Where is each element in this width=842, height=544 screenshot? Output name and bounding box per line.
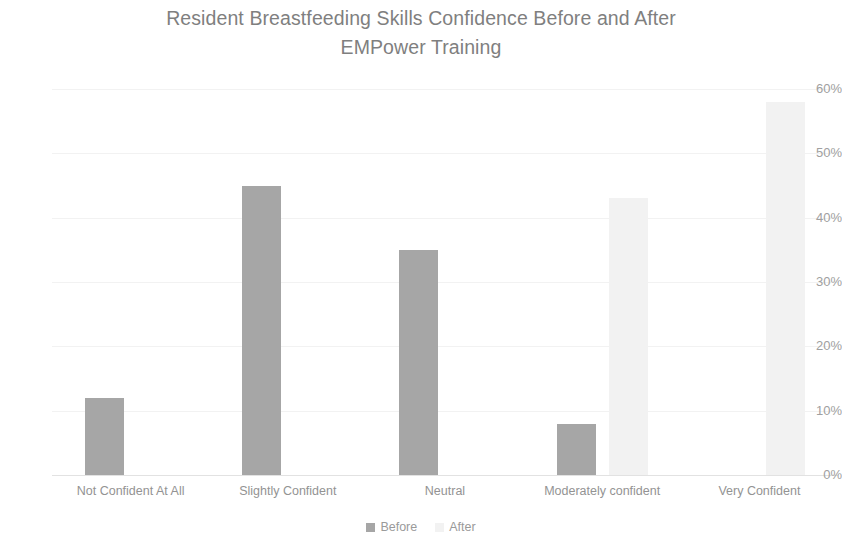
bar-group [524,89,681,475]
y-axis-tick-label: 40% [796,211,842,224]
x-axis-tick-label: Very Confident [681,484,838,499]
x-axis-tick-label: Not Confident At All [52,484,209,499]
x-axis-tick-label: Moderately confident [524,484,681,499]
legend-swatch-icon [366,523,375,532]
legend-label: Before [380,521,417,534]
x-axis-line [52,475,838,476]
x-axis-tick-label: Neutral [366,484,523,499]
legend-label: After [449,521,475,534]
bar-before[interactable] [399,250,438,475]
bar-group [52,89,209,475]
y-axis-tick-label: 10% [796,404,842,417]
y-axis-tick-label: 60% [796,82,842,95]
legend-swatch-icon [435,523,444,532]
legend-item[interactable]: Before [366,521,417,534]
y-axis-tick-label: 20% [796,339,842,352]
y-axis-tick-label: 50% [796,146,842,159]
bar-group [209,89,366,475]
plot-frame: 60%50%40%30%20%10%0% Not Confident At Al… [0,0,842,544]
x-axis-tick-label: Slightly Confident [209,484,366,499]
bar-group [366,89,523,475]
bar-before[interactable] [85,398,124,475]
y-axis-tick-label: 0% [796,468,842,481]
legend-item[interactable]: After [435,521,475,534]
bar-after[interactable] [609,198,648,475]
bar-before[interactable] [242,186,281,476]
y-axis-tick-label: 30% [796,275,842,288]
bar-before[interactable] [557,424,596,475]
chart-legend: BeforeAfter [0,521,842,534]
plot-area [52,89,838,475]
